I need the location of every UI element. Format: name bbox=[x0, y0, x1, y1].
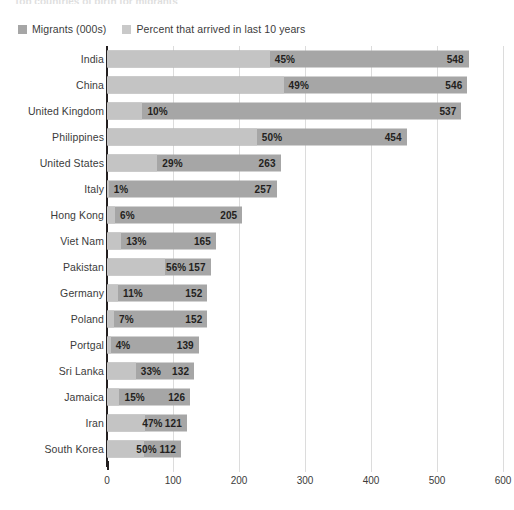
bar-percent-arrived bbox=[107, 259, 165, 276]
value-label: 537 bbox=[439, 106, 456, 117]
bar-percent-arrived bbox=[107, 389, 119, 406]
category-label: United States bbox=[40, 157, 104, 169]
percent-label: 50% bbox=[262, 132, 282, 143]
percent-label: 45% bbox=[275, 54, 295, 65]
value-label: 257 bbox=[255, 184, 272, 195]
category-label: Poland bbox=[71, 313, 104, 325]
percent-label: 47% bbox=[142, 418, 162, 429]
bar-percent-arrived bbox=[107, 155, 157, 172]
bar-percent-arrived bbox=[107, 363, 136, 380]
bar-group: 1%257 bbox=[107, 181, 277, 198]
bar-row: Germany11%152 bbox=[0, 280, 514, 306]
percent-label: 29% bbox=[162, 158, 182, 169]
x-axis-tick-label: 300 bbox=[297, 475, 314, 486]
bar-percent-arrived bbox=[107, 415, 145, 432]
bar-migrants bbox=[107, 181, 277, 198]
x-axis-tick bbox=[437, 467, 438, 472]
bar-group: 29%263 bbox=[107, 155, 281, 172]
bar-row: Sri Lanka33%132 bbox=[0, 358, 514, 384]
category-label: Sri Lanka bbox=[59, 365, 104, 377]
bar-row: China49%546 bbox=[0, 72, 514, 98]
bar-group: 33%132 bbox=[107, 363, 194, 380]
category-label: South Korea bbox=[45, 443, 104, 455]
category-label: China bbox=[76, 79, 104, 91]
bar-row: Poland7%152 bbox=[0, 306, 514, 332]
bar-group: 4%139 bbox=[107, 337, 199, 354]
bar-percent-arrived bbox=[107, 129, 257, 146]
category-label: Viet Nam bbox=[60, 235, 104, 247]
bar-row: Viet Nam13%165 bbox=[0, 228, 514, 254]
legend-label-percent: Percent that arrived in last 10 years bbox=[136, 23, 305, 35]
legend-swatch-icon bbox=[122, 25, 131, 34]
category-label: India bbox=[81, 53, 104, 65]
value-label: 263 bbox=[259, 158, 276, 169]
bar-group: 13%165 bbox=[107, 233, 216, 250]
bar-group: 49%546 bbox=[107, 77, 467, 94]
value-label: 152 bbox=[185, 288, 202, 299]
bar-group: 56%157 bbox=[107, 259, 211, 276]
value-label: 165 bbox=[194, 236, 211, 247]
percent-label: 1% bbox=[114, 184, 129, 195]
bar-row: South Korea50%112 bbox=[0, 436, 514, 462]
percent-label: 11% bbox=[123, 288, 143, 299]
percent-label: 6% bbox=[120, 210, 135, 221]
value-label: 152 bbox=[185, 314, 202, 325]
x-axis-tick-label: 0 bbox=[104, 475, 110, 486]
category-label: Iran bbox=[86, 417, 105, 429]
bar-percent-arrived bbox=[107, 181, 109, 198]
category-label: Philippines bbox=[52, 131, 104, 143]
percent-label: 4% bbox=[116, 340, 131, 351]
category-label: Jamaica bbox=[64, 391, 104, 403]
bar-group: 10%537 bbox=[107, 103, 461, 120]
bar-percent-arrived bbox=[107, 285, 118, 302]
bar-percent-arrived bbox=[107, 337, 111, 354]
x-axis: 0100200300400500600 bbox=[0, 467, 514, 497]
bar-rows: India45%548China49%546United Kingdom10%5… bbox=[0, 46, 514, 462]
category-label: Germany bbox=[60, 287, 104, 299]
value-label: 546 bbox=[445, 80, 462, 91]
bar-row: Hong Kong6%205 bbox=[0, 202, 514, 228]
percent-label: 56% bbox=[166, 262, 186, 273]
bar-group: 50%112 bbox=[107, 441, 181, 458]
bar-group: 50%454 bbox=[107, 129, 407, 146]
bar-percent-arrived bbox=[107, 311, 114, 328]
percent-label: 13% bbox=[126, 236, 146, 247]
x-axis-tick bbox=[239, 467, 240, 472]
value-label: 548 bbox=[447, 54, 464, 65]
bar-percent-arrived bbox=[107, 103, 142, 120]
value-label: 139 bbox=[177, 340, 194, 351]
chart-legend: Migrants (000s) Percent that arrived in … bbox=[18, 22, 305, 36]
bar-percent-arrived bbox=[107, 51, 270, 68]
x-axis-tick bbox=[503, 467, 504, 472]
bar-group: 11%152 bbox=[107, 285, 207, 302]
bar-percent-arrived bbox=[107, 77, 284, 94]
bar-group: 47%121 bbox=[107, 415, 187, 432]
category-label: Pakistan bbox=[63, 261, 104, 273]
x-axis-tick-label: 100 bbox=[165, 475, 182, 486]
x-axis-tick-label: 500 bbox=[429, 475, 446, 486]
x-axis-tick-label: 200 bbox=[231, 475, 248, 486]
category-label: Hong Kong bbox=[51, 209, 104, 221]
bar-row: India45%548 bbox=[0, 46, 514, 72]
value-label: 454 bbox=[385, 132, 402, 143]
x-axis-tick-label: 600 bbox=[495, 475, 512, 486]
x-axis-tick-label: 400 bbox=[363, 475, 380, 486]
bar-row: Iran47%121 bbox=[0, 410, 514, 436]
percent-label: 49% bbox=[289, 80, 309, 91]
bar-row: Philippines50%454 bbox=[0, 124, 514, 150]
value-label: 126 bbox=[168, 392, 185, 403]
bar-row: United Kingdom10%537 bbox=[0, 98, 514, 124]
percent-label: 50% bbox=[136, 444, 156, 455]
value-label: 132 bbox=[172, 366, 189, 377]
value-label: 205 bbox=[220, 210, 237, 221]
x-axis-tick bbox=[305, 467, 306, 472]
percent-label: 15% bbox=[124, 392, 144, 403]
value-label: 121 bbox=[165, 418, 182, 429]
bar-group: 45%548 bbox=[107, 51, 469, 68]
bar-row: Jamaica15%126 bbox=[0, 384, 514, 410]
bar-group: 6%205 bbox=[107, 207, 242, 224]
legend-item-percent: Percent that arrived in last 10 years bbox=[122, 23, 305, 35]
bar-row: Italy1%257 bbox=[0, 176, 514, 202]
bar-row: United States29%263 bbox=[0, 150, 514, 176]
percent-label: 33% bbox=[141, 366, 161, 377]
